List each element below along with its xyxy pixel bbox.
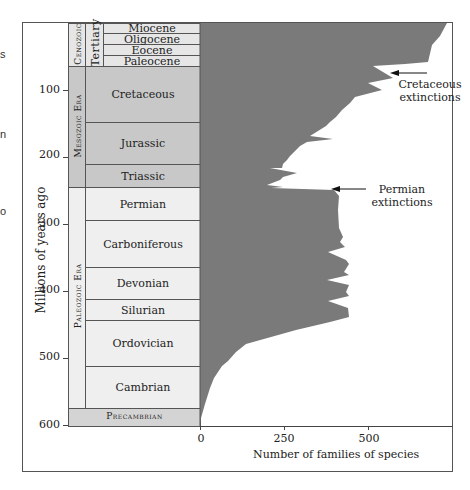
x-axis-label: Number of families of species — [253, 448, 419, 461]
x-axis-line — [200, 426, 453, 427]
x-tick-mark — [200, 426, 201, 430]
x-tick-mark — [284, 426, 285, 430]
annotation-line: Permian — [370, 183, 434, 196]
annotation-line: extinctions — [398, 91, 462, 104]
x-tick-label: 500 — [359, 432, 380, 445]
cretaceous-arrow-icon — [390, 70, 427, 76]
x-tick-label: 0 — [198, 432, 205, 445]
permian-arrow-icon — [331, 186, 366, 192]
annotation-line: Cretaceous — [398, 78, 462, 91]
permian-annotation: Permian extinctions — [370, 183, 434, 209]
x-tick-label: 250 — [274, 432, 295, 445]
annotation-line: extinctions — [370, 196, 434, 209]
cretaceous-annotation: Cretaceous extinctions — [398, 78, 462, 104]
diversity-area-plot — [0, 0, 470, 490]
x-tick-mark — [368, 426, 369, 430]
